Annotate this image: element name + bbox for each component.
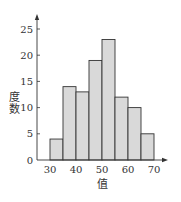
histogram-bar <box>76 92 89 160</box>
y-tick-label: 15 <box>20 76 33 87</box>
y-axis-label: 度数 <box>9 90 20 116</box>
y-axis-arrow-icon <box>35 14 39 20</box>
bars-group <box>50 39 154 160</box>
x-tick-label: 60 <box>122 164 135 175</box>
x-tick-label: 50 <box>96 164 109 175</box>
histogram-bar <box>102 39 115 160</box>
x-axis-label: 值 <box>97 178 108 191</box>
y-tick-label: 0 <box>27 155 33 166</box>
y-tick-label: 20 <box>20 50 33 61</box>
x-tick-label: 70 <box>148 164 161 175</box>
y-axis-label-char: 度 <box>9 90 20 104</box>
histogram-chart: 0510152025 3040506070 值 度数 <box>0 0 181 202</box>
histogram-bar <box>141 134 154 160</box>
histogram-bar <box>63 87 76 160</box>
histogram-bar <box>89 60 102 160</box>
histogram-bar <box>50 139 63 160</box>
x-tick-label: 30 <box>44 164 57 175</box>
y-tick-label: 5 <box>27 128 33 139</box>
x-ticks-group: 3040506070 <box>44 164 161 175</box>
y-tick-label: 10 <box>20 102 33 113</box>
y-axis-label-char: 数 <box>9 103 20 116</box>
x-axis-arrow-icon <box>162 158 168 162</box>
y-tick-label: 25 <box>20 24 33 35</box>
x-tick-label: 40 <box>70 164 83 175</box>
histogram-bar <box>128 108 141 160</box>
histogram-bar <box>115 97 128 160</box>
